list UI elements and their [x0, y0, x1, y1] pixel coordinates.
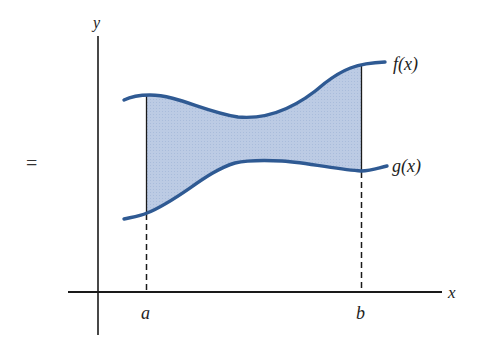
a-label: a	[141, 303, 150, 323]
shaded-area-region	[147, 64, 361, 213]
g-curve-label: g(x)	[392, 156, 421, 177]
y-axis-label: y	[91, 14, 101, 32]
equals-sign: =	[26, 152, 37, 174]
area-between-curves-diagram: = y x a b f(x) g(x)	[0, 0, 479, 349]
b-label: b	[356, 303, 365, 323]
f-curve-label: f(x)	[393, 54, 418, 75]
x-axis-label: x	[447, 283, 456, 302]
